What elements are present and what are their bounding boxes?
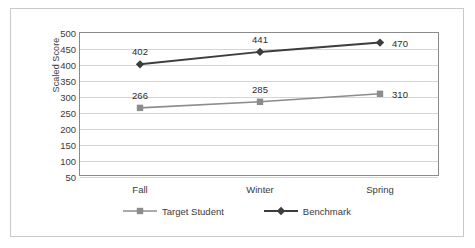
- series-marker: [137, 105, 143, 111]
- plot-area: 50045040035030025020015010050 FallWinter…: [79, 32, 439, 176]
- legend-item[interactable]: Target Student: [123, 205, 224, 217]
- y-axis-tick-label: 350: [36, 76, 76, 87]
- y-axis-tick-label: 450: [36, 44, 76, 55]
- data-point-label: 441: [252, 33, 268, 44]
- data-point-label: 402: [132, 46, 148, 57]
- y-axis-tick-label: 150: [36, 140, 76, 151]
- data-point-label: 310: [392, 88, 408, 99]
- series-marker: [376, 38, 384, 46]
- y-axis-tick-label: 300: [36, 92, 76, 103]
- x-axis-tick-label: Winter: [220, 184, 300, 195]
- y-axis-tick-label: 400: [36, 60, 76, 71]
- legend-label: Target Student: [162, 206, 224, 217]
- y-axis-tick-label: 250: [36, 108, 76, 119]
- x-axis-tick-label: Fall: [100, 184, 180, 195]
- data-point-label: 266: [132, 89, 148, 100]
- series-marker: [377, 91, 383, 97]
- chart-legend: Target StudentBenchmark: [11, 205, 463, 217]
- legend-label: Benchmark: [303, 206, 351, 217]
- legend-swatch: [264, 205, 298, 217]
- y-axis-tick-label: 50: [36, 172, 76, 183]
- y-axis-tick-label: 500: [36, 28, 76, 39]
- chart-figure: Scaled Score 500450400350300250200150100…: [10, 8, 464, 237]
- series-marker: [257, 99, 263, 105]
- series-marker: [136, 60, 144, 68]
- series-marker: [256, 48, 264, 56]
- x-axis-tick-label: Spring: [340, 184, 420, 195]
- y-axis-tick-label: 200: [36, 124, 76, 135]
- data-point-label: 470: [392, 37, 408, 48]
- y-axis-tick-label: 100: [36, 156, 76, 167]
- gridline: [80, 177, 438, 178]
- legend-swatch: [123, 205, 157, 217]
- data-point-label: 285: [252, 83, 268, 94]
- legend-item[interactable]: Benchmark: [264, 205, 351, 217]
